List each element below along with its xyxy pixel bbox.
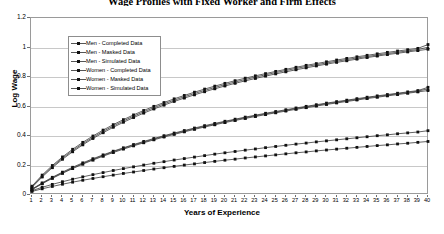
- data-point-marker: [274, 145, 277, 148]
- data-point-marker: [213, 153, 216, 156]
- data-point-marker: [112, 174, 115, 177]
- data-point-marker: [335, 148, 338, 151]
- data-point-marker: [274, 153, 277, 156]
- data-point-marker: [254, 156, 257, 159]
- chart-root: Wage Profiles with Fixed Worker and Firm…: [0, 0, 444, 234]
- legend-label: Men - Completed Data: [86, 39, 142, 48]
- data-point-marker: [325, 149, 328, 152]
- legend-marker-icon: [71, 58, 86, 65]
- data-point-marker: [254, 148, 257, 151]
- data-point-marker: [345, 137, 348, 140]
- legend-label: Women - Masked Data: [86, 75, 143, 84]
- data-point-marker: [92, 173, 95, 176]
- data-point-marker: [71, 178, 74, 181]
- data-point-marker: [406, 142, 409, 145]
- y-tick-label: 0.4: [0, 131, 26, 139]
- data-point-marker: [102, 175, 105, 178]
- data-point-marker: [81, 175, 84, 178]
- data-point-marker: [264, 146, 267, 149]
- data-point-marker: [163, 166, 166, 169]
- data-point-marker: [234, 150, 237, 153]
- x-tick-label: 40: [421, 197, 433, 203]
- data-point-marker: [244, 149, 247, 152]
- data-point-marker: [61, 180, 64, 183]
- y-axis-label: Log Wage: [10, 54, 19, 124]
- data-point-marker: [51, 185, 54, 188]
- chart-legend: Men - Completed DataMen - Masked DataMen…: [68, 36, 161, 96]
- chart-title: Wage Profiles with Fixed Worker and Firm…: [0, 0, 444, 6]
- legend-item[interactable]: Men - Completed Data: [71, 39, 158, 48]
- legend-item[interactable]: Men - Masked Data: [71, 48, 158, 57]
- data-point-marker: [315, 150, 318, 153]
- legend-label: Women - Completed Data: [86, 66, 151, 75]
- legend-marker-icon: [71, 85, 86, 92]
- data-point-marker: [416, 131, 419, 134]
- y-tick-label: 0.8: [0, 72, 26, 80]
- data-point-marker: [81, 179, 84, 182]
- data-point-marker: [376, 144, 379, 147]
- y-tick-label: 0.6: [0, 102, 26, 110]
- data-point-marker: [244, 157, 247, 160]
- legend-item[interactable]: Women - Simulated Data: [71, 84, 158, 93]
- data-point-marker: [203, 154, 206, 157]
- data-point-marker: [41, 187, 44, 190]
- data-point-marker: [366, 135, 369, 138]
- data-point-marker: [61, 183, 64, 186]
- data-point-marker: [356, 146, 359, 149]
- series-line: [32, 141, 428, 191]
- data-point-marker: [416, 141, 419, 144]
- plot-area: Men - Completed DataMen - Masked DataMen…: [30, 17, 428, 194]
- data-point-marker: [366, 145, 369, 148]
- data-point-marker: [173, 159, 176, 162]
- y-tick-label: 0: [0, 190, 26, 198]
- data-point-marker: [224, 159, 227, 162]
- data-point-marker: [305, 151, 308, 154]
- data-point-marker: [132, 171, 135, 174]
- data-point-marker: [193, 162, 196, 165]
- data-point-marker: [376, 134, 379, 137]
- data-point-marker: [427, 129, 430, 132]
- data-point-marker: [193, 156, 196, 159]
- y-tick-label: 1: [0, 43, 26, 51]
- data-point-marker: [284, 144, 287, 147]
- legend-marker-icon: [71, 76, 86, 83]
- data-point-marker: [71, 181, 74, 184]
- data-point-marker: [295, 151, 298, 154]
- data-point-marker: [183, 157, 186, 160]
- data-point-marker: [92, 177, 95, 180]
- data-point-marker: [335, 138, 338, 141]
- legend-label: Men - Simulated Data: [86, 57, 140, 66]
- data-point-marker: [142, 164, 145, 167]
- data-point-marker: [386, 143, 389, 146]
- data-point-marker: [315, 141, 318, 144]
- data-point-marker: [345, 147, 348, 150]
- data-point-marker: [132, 165, 135, 168]
- data-point-marker: [325, 139, 328, 142]
- y-tick-label: 0.2: [0, 161, 26, 169]
- data-point-marker: [122, 172, 125, 175]
- data-point-marker: [142, 169, 145, 172]
- data-point-marker: [102, 171, 105, 174]
- data-point-marker: [396, 143, 399, 146]
- data-point-marker: [152, 168, 155, 171]
- data-point-marker: [112, 169, 115, 172]
- x-axis-label: Years of Experience: [0, 208, 444, 217]
- data-point-marker: [152, 162, 155, 165]
- legend-item[interactable]: Men - Simulated Data: [71, 57, 158, 66]
- data-point-marker: [213, 160, 216, 163]
- data-point-marker: [183, 164, 186, 167]
- legend-label: Women - Simulated Data: [86, 84, 148, 93]
- data-point-marker: [122, 167, 125, 170]
- data-point-marker: [173, 165, 176, 168]
- data-point-marker: [163, 160, 166, 163]
- data-point-marker: [386, 133, 389, 136]
- legend-marker-icon: [71, 49, 86, 56]
- data-point-marker: [224, 151, 227, 154]
- legend-marker-icon: [71, 67, 86, 74]
- data-point-marker: [356, 136, 359, 139]
- y-tick-label: 1.2: [0, 13, 26, 21]
- data-point-marker: [203, 161, 206, 164]
- legend-item[interactable]: Women - Masked Data: [71, 75, 158, 84]
- data-point-marker: [427, 140, 430, 143]
- legend-item[interactable]: Women - Completed Data: [71, 66, 158, 75]
